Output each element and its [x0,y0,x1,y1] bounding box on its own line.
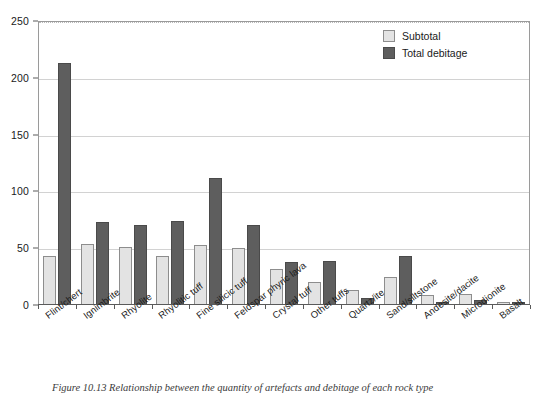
x-tick-mark [454,305,455,309]
y-tick-label: 0 [23,299,29,311]
bar-group [303,21,341,305]
y-tick-label: 50 [17,242,29,254]
bar-group [492,21,530,305]
bar-group [227,21,265,305]
x-tick-mark [379,305,380,309]
y-tick-label: 250 [11,15,29,27]
y-tick-label: 200 [11,72,29,84]
bar-subtotal[interactable] [119,247,132,305]
bar-group [416,21,454,305]
legend-item-label: Total debitage [402,47,467,59]
x-tick-mark [530,305,531,309]
bar-subtotal[interactable] [194,245,207,305]
bar-total-debitage[interactable] [58,63,71,305]
legend-swatch-subtotal [383,30,395,42]
x-tick-mark [341,305,342,309]
bar-group [189,21,227,305]
y-tick-label: 100 [11,185,29,197]
legend-swatch-total-debitage [383,47,395,59]
x-tick-mark [265,305,266,309]
bar-group [379,21,417,305]
x-tick-mark [227,305,228,309]
y-tick-label: 150 [11,129,29,141]
x-tick-mark [114,305,115,309]
legend-item-label: Subtotal [402,30,441,42]
x-tick-mark [189,305,190,309]
bar-group [76,21,114,305]
x-tick-mark [38,305,39,309]
figure-caption: Figure 10.13 Relationship between the qu… [52,381,502,394]
y-axis: 050100150200250 [0,0,38,392]
chart-legend: SubtotalTotal debitage [383,30,467,59]
legend-item[interactable]: Total debitage [383,47,467,59]
bars-layer [38,21,530,305]
bar-subtotal[interactable] [156,256,169,305]
bar-subtotal[interactable] [43,256,56,305]
bar-group [454,21,492,305]
x-tick-mark [152,305,153,309]
bar-group [152,21,190,305]
x-tick-mark [492,305,493,309]
x-tick-mark [76,305,77,309]
bar-group [114,21,152,305]
bar-total-debitage[interactable] [209,178,222,305]
bar-subtotal[interactable] [384,277,397,305]
legend-item[interactable]: Subtotal [383,30,467,42]
x-tick-mark [303,305,304,309]
bar-group [341,21,379,305]
bar-group [38,21,76,305]
x-tick-mark [416,305,417,309]
